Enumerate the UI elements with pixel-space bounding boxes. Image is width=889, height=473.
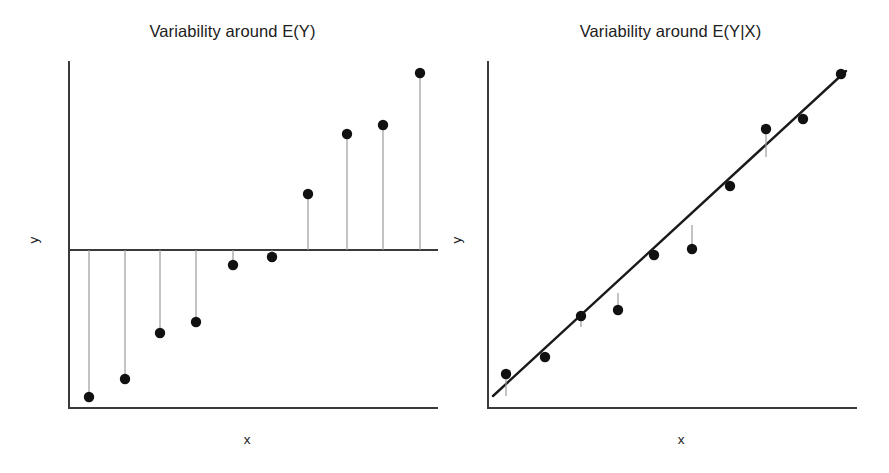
data-point (798, 114, 808, 124)
x-axis-label-left: x (244, 432, 251, 447)
data-point (501, 369, 511, 379)
data-point (267, 252, 277, 262)
data-point (687, 244, 697, 254)
data-point (228, 260, 238, 270)
data-points-right (501, 69, 846, 379)
data-point (415, 68, 425, 78)
data-point (342, 129, 352, 139)
data-point (576, 311, 586, 321)
regression-reference-line (493, 71, 846, 396)
residual-segments-left (89, 73, 420, 397)
plot-area-right (444, 0, 889, 473)
data-point (303, 189, 313, 199)
data-point (155, 328, 165, 338)
data-point (191, 317, 201, 327)
y-axis-label-right: y (449, 237, 464, 244)
data-point (540, 352, 550, 362)
data-point (725, 181, 735, 191)
regression-line-eyx (493, 71, 846, 396)
y-axis-label-left: y (26, 237, 41, 244)
plot-area-left (0, 0, 445, 473)
data-point (378, 120, 388, 130)
figure-canvas: Variability around E(Y) y x Variability … (0, 0, 889, 473)
data-point (613, 305, 623, 315)
data-point (120, 374, 130, 384)
data-point (761, 124, 771, 134)
data-points-left (84, 68, 425, 402)
panel-variability-around-ey: Variability around E(Y) y x (0, 0, 445, 473)
data-point (836, 69, 846, 79)
axes-left (69, 62, 437, 408)
x-axis-label-right: x (678, 432, 685, 447)
data-point (649, 250, 659, 260)
panel-variability-around-eyx: Variability around E(Y|X) y x (444, 0, 889, 473)
data-point (84, 392, 94, 402)
